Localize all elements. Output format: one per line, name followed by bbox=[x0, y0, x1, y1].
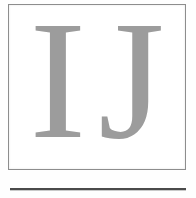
horizontal-divider-shadow bbox=[10, 190, 186, 191]
section-initials: IJ bbox=[9, 4, 185, 170]
initials-box: IJ bbox=[8, 4, 186, 170]
scanned-page: IJ bbox=[0, 0, 196, 198]
